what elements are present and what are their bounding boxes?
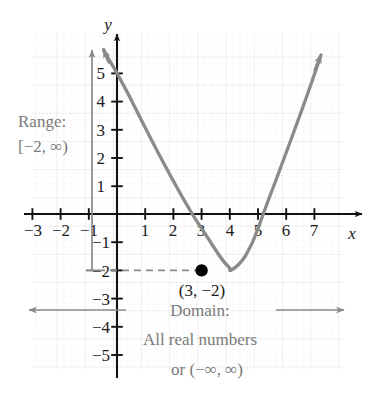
x-tick-label: 4 (226, 221, 235, 240)
x-tick-label: −3 (24, 221, 42, 240)
coordinate-plane-svg: x y −3 −2 −1 1 2 (0, 0, 379, 405)
graph-figure: x y −3 −2 −1 1 2 (0, 0, 379, 405)
x-tick-label: 1 (141, 221, 150, 240)
x-tick-label: 7 (310, 221, 319, 240)
y-tick-label: 5 (97, 64, 106, 83)
y-tick-label: −2 (92, 262, 110, 281)
y-tick-label: 4 (97, 92, 106, 111)
x-tick-label: 6 (282, 221, 291, 240)
y-tick-label: −3 (92, 290, 110, 309)
domain-title: Domain: (170, 301, 230, 320)
x-axis-label: x (347, 224, 356, 243)
domain-line-1: All real numbers (143, 330, 257, 349)
y-tick-label: 3 (97, 121, 106, 140)
y-axis-label: y (102, 15, 112, 34)
y-tick-label: −5 (92, 346, 110, 365)
y-tick-label: −1 (92, 233, 110, 252)
domain-line-2: or (−∞, ∞) (171, 360, 243, 379)
x-tick-label: −2 (52, 221, 70, 240)
range-title: Range: (18, 112, 66, 131)
vertex-point-label: (3, −2) (179, 281, 225, 300)
y-tick-label: 2 (97, 149, 106, 168)
y-tick-label: 1 (97, 177, 106, 196)
vertex-point (195, 264, 207, 276)
y-tick-label: −4 (92, 318, 111, 337)
x-tick-label: 2 (169, 221, 178, 240)
range-interval: [−2, ∞) (18, 137, 68, 156)
